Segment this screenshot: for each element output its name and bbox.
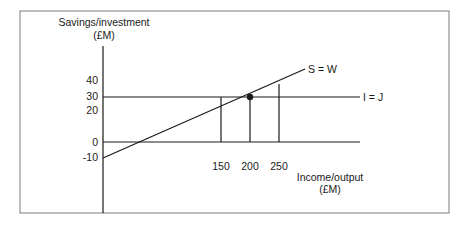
chart: Savings/investment (£M) 40 30 20 0 -10 1…: [0, 0, 468, 227]
y-tick-20: 20: [86, 104, 98, 116]
y-tick-30: 30: [86, 90, 98, 102]
x-tick-200: 200: [241, 160, 259, 172]
y-axis-unit: (£M): [93, 29, 115, 41]
equilibrium-point: [247, 94, 253, 100]
y-tick-minus-10: -10: [83, 151, 98, 163]
x-tick-150: 150: [212, 160, 230, 172]
x-tick-250: 250: [270, 160, 288, 172]
y-tick-0: 0: [92, 136, 98, 148]
savings-line: [103, 69, 305, 158]
x-axis-title: Income/output: [297, 171, 364, 183]
chart-frame: [20, 11, 449, 213]
y-axis-title: Savings/investment: [58, 16, 149, 28]
x-axis-unit: (£M): [319, 183, 341, 195]
investment-line-label: I = J: [363, 91, 383, 103]
y-tick-40: 40: [86, 74, 98, 86]
savings-line-label: S = W: [308, 63, 337, 75]
